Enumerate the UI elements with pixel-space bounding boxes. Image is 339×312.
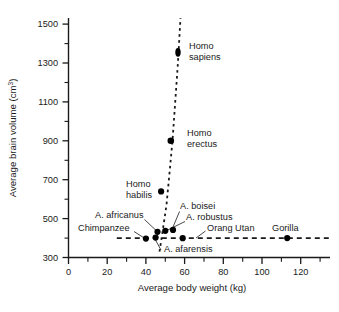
label-chimpanzee: Chimpanzee <box>78 223 130 233</box>
y-tick-label-1300: 1300 <box>38 58 58 68</box>
label-a-boisei: A. boisei <box>180 201 215 211</box>
y-axis-tick-labels: 300 500 700 900 1100 1300 1500 <box>38 19 58 262</box>
x-tick-label-0: 0 <box>66 267 71 277</box>
x-tick-label-60: 60 <box>179 267 189 277</box>
data-point-gorilla <box>284 235 290 241</box>
data-point-a-afarensis <box>153 235 159 241</box>
data-point-chimpanzee <box>143 236 149 242</box>
x-tick-label-100: 100 <box>254 267 269 277</box>
data-point-homo-sapiens <box>175 48 180 57</box>
y-axis-title: Average brain volume (cm3) <box>7 79 18 198</box>
data-point-orang-utan <box>180 235 186 241</box>
data-point-a-boisei <box>170 227 176 233</box>
data-point-homo-habilis <box>158 188 164 194</box>
x-axis-title: Average body weight (kg) <box>138 282 247 293</box>
y-axis-title-tail: ) <box>7 79 18 82</box>
label-gorilla: Gorilla <box>272 223 299 233</box>
data-point-a-africanus <box>154 229 160 235</box>
y-axis-ticks <box>63 24 69 257</box>
label-a-afarensis: A. afarensis <box>164 244 213 254</box>
x-axis-ticks <box>69 258 321 265</box>
x-tick-label-40: 40 <box>141 267 151 277</box>
data-point-a-robustus <box>162 228 168 234</box>
x-tick-label-120: 120 <box>293 267 308 277</box>
x-tick-label-80: 80 <box>218 267 228 277</box>
x-tick-label-20: 20 <box>102 267 112 277</box>
y-tick-label-1500: 1500 <box>38 19 58 29</box>
y-tick-label-1100: 1100 <box>38 97 58 107</box>
label-a-robustus: A. robustus <box>186 212 233 222</box>
label-homo-habilis-line1: Homo <box>126 179 151 189</box>
label-homo-sapiens-line2: sapiens <box>189 52 221 62</box>
label-orang-utan: Orang Utan <box>207 223 255 233</box>
chart-canvas: 300 500 700 900 1100 1300 1500 <box>0 0 339 312</box>
y-tick-label-300: 300 <box>43 253 58 263</box>
x-axis-tick-labels: 0 20 40 60 80 100 120 <box>66 267 308 277</box>
data-point-homo-erectus <box>168 138 175 145</box>
y-axis-title-main: Average brain volume (cm <box>7 86 18 198</box>
y-tick-label-900: 900 <box>43 136 58 146</box>
label-homo-sapiens-line1: Homo <box>189 41 214 51</box>
y-tick-label-700: 700 <box>43 175 58 185</box>
label-a-africanus: A. africanus <box>95 210 144 220</box>
point-labels: Homo sapiens Homo erectus Homo habilis A… <box>78 41 299 254</box>
label-homo-habilis-line2: habilis <box>126 190 152 200</box>
label-homo-erectus-line2: erectus <box>187 139 218 149</box>
brain-volume-vs-body-weight-chart: 300 500 700 900 1100 1300 1500 <box>0 0 339 312</box>
svg-text:Average brain volume (cm3): Average brain volume (cm3) <box>7 79 18 198</box>
y-tick-label-500: 500 <box>43 214 58 224</box>
label-homo-erectus-line1: Homo <box>187 128 212 138</box>
